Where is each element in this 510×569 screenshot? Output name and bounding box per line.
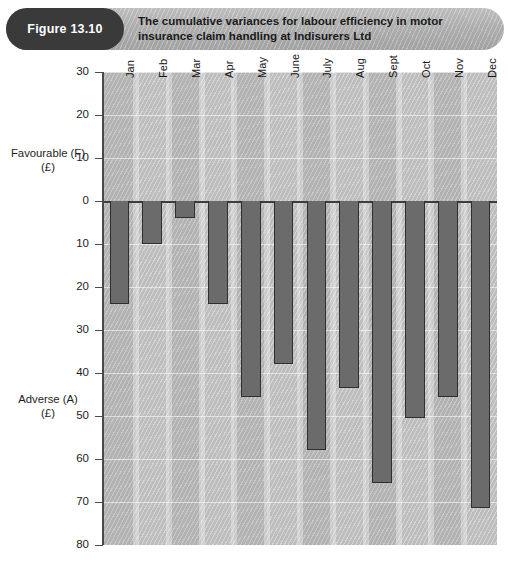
y-tick-label: 0	[49, 195, 89, 206]
bar-may	[241, 201, 261, 397]
y-tick-label: 60	[49, 453, 89, 464]
month-label-jan: Jan	[124, 60, 136, 78]
figure-header: Figure 13.10 The cumulative variances fo…	[6, 8, 504, 50]
column-separator	[166, 72, 172, 545]
y-tick-mark	[95, 330, 103, 331]
column-separator	[396, 72, 402, 545]
month-label-dec: Dec	[486, 58, 498, 78]
y-tick-mark	[95, 158, 103, 159]
bar-nov	[438, 201, 458, 397]
y-tick-label: 20	[49, 109, 89, 120]
column-separator	[133, 72, 139, 545]
column-separator	[231, 72, 237, 545]
figure-title: The cumulative variances for labour effi…	[138, 14, 453, 43]
plot-area	[103, 72, 497, 545]
y-tick-mark	[95, 545, 103, 546]
column-separator	[199, 72, 205, 545]
month-label-july: July	[321, 58, 333, 78]
column-separator	[297, 72, 303, 545]
y-tick-label: 30	[49, 66, 89, 77]
gridline	[103, 158, 497, 159]
column-separator	[330, 72, 336, 545]
adverse-caption-line-2: (£)	[0, 406, 96, 420]
y-tick-label: 20	[49, 281, 89, 292]
figure-number-badge: Figure 13.10	[6, 8, 124, 50]
y-tick-mark	[95, 502, 103, 503]
month-label-oct: Oct	[420, 61, 432, 78]
y-tick-label: 80	[49, 539, 89, 550]
month-label-apr: Apr	[223, 61, 235, 78]
column-separator	[461, 72, 467, 545]
favourable-caption-line-2: (£)	[0, 160, 96, 174]
column-separator	[428, 72, 434, 545]
bar-feb	[142, 201, 162, 244]
y-tick-mark	[95, 115, 103, 116]
y-tick-label: 40	[49, 367, 89, 378]
adverse-axis-caption: Adverse (A) (£)	[0, 392, 96, 420]
y-axis-line	[102, 72, 104, 545]
bar-apr	[208, 201, 228, 304]
figure-title-line-1: The cumulative variances for labour effi…	[138, 14, 443, 29]
y-tick-label: 70	[49, 496, 89, 507]
column-separator	[363, 72, 369, 545]
month-label-mar: Mar	[190, 59, 202, 78]
y-tick-label: 10	[49, 238, 89, 249]
figure-title-line-2: insurance claim handling at Indisurers L…	[138, 29, 443, 44]
month-label-feb: Feb	[157, 59, 169, 78]
bar-dec	[471, 201, 491, 508]
column-separator	[264, 72, 270, 545]
favourable-caption-line-1: Favourable (F)	[0, 146, 96, 160]
month-label-june: June	[289, 54, 301, 78]
column-band	[103, 72, 136, 545]
y-tick-mark	[95, 201, 103, 202]
bar-sept	[372, 201, 392, 483]
bar-oct	[405, 201, 425, 418]
y-tick-mark	[95, 373, 103, 374]
bar-june	[274, 201, 294, 364]
chart-region: 30201001020304050607080 JanFebMarAprMayJ…	[0, 52, 510, 569]
month-label-sept: Sept	[387, 55, 399, 78]
adverse-caption-line-1: Adverse (A)	[0, 392, 96, 406]
y-tick-mark	[95, 459, 103, 460]
y-tick-mark	[95, 244, 103, 245]
month-label-nov: Nov	[453, 58, 465, 78]
bar-jan	[110, 201, 130, 304]
y-tick-mark	[95, 416, 103, 417]
gridline	[103, 502, 497, 503]
favourable-axis-caption: Favourable (F) (£)	[0, 146, 96, 174]
y-tick-mark	[95, 72, 103, 73]
gridline	[103, 459, 497, 460]
y-tick-mark	[95, 287, 103, 288]
month-label-aug: Aug	[354, 58, 366, 78]
month-label-may: May	[256, 57, 268, 78]
bar-aug	[339, 201, 359, 388]
y-tick-label: 30	[49, 324, 89, 335]
gridline	[103, 416, 497, 417]
bar-july	[307, 201, 327, 450]
bar-mar	[175, 201, 195, 218]
gridline	[103, 115, 497, 116]
column-band	[169, 72, 202, 545]
